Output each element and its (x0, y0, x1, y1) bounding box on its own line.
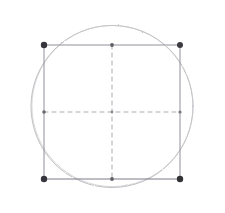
geometry-figure: Square inscribed in a circle with dashed… (0, 0, 225, 213)
vertex-top-left-marker (41, 42, 47, 48)
midpoint-left-marker (42, 110, 46, 114)
midpoint-top-marker (110, 43, 114, 47)
center-marker (111, 111, 114, 114)
figure-canvas (0, 0, 225, 213)
vertex-top-right-marker (177, 42, 183, 48)
midpoint-bottom-marker (110, 177, 114, 181)
vertex-bottom-right-marker (177, 176, 183, 182)
vertex-bottom-left-marker (41, 176, 47, 182)
midpoint-right-marker (178, 110, 181, 113)
figure-background (0, 0, 225, 213)
